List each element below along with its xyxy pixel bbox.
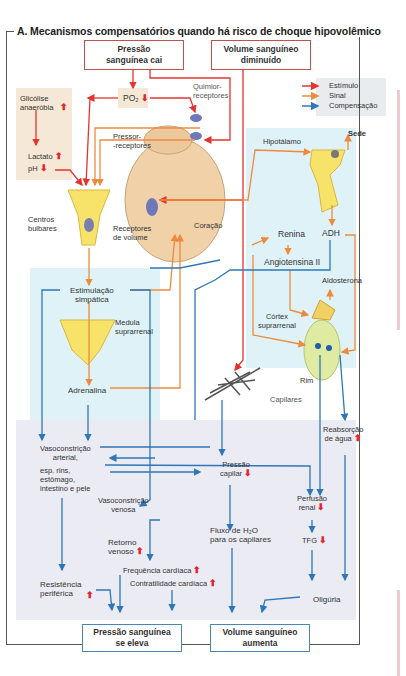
arrow-up-icon: ⬆ <box>86 590 94 600</box>
pressure-rises-box: Pressão sanguínea se eleva <box>82 624 182 652</box>
label-aldosterona: Aldosterona <box>322 276 362 285</box>
hypothalamus-illustration <box>310 150 345 212</box>
label-medula: Medula suprarrenal <box>115 318 153 336</box>
arrow-up-icon: ⬆ <box>354 433 362 443</box>
label-contratilidade: Contratilidade cardíaca ⬆ <box>130 579 217 588</box>
label-receptores-volume: Receptores de volume <box>113 224 151 242</box>
label-quimioreceptores: Quimior- receptores <box>193 82 228 100</box>
label-capilares: Capilares <box>270 395 302 404</box>
label-rim: Rim <box>300 376 313 385</box>
label-angiotensina: Angiotensina II <box>264 258 320 267</box>
label-pressao-capilar: Pressão capilar ⬇ <box>220 460 252 478</box>
label-sede: Sede <box>348 129 366 138</box>
label-tfg: TFG ⬇ <box>302 536 327 545</box>
arrow-up-icon: ⬆ <box>209 578 217 588</box>
pressure-falls-box: Pressão sanguínea cai <box>84 40 184 70</box>
legend-compensation: Compensação <box>329 101 377 110</box>
label-vasoconstricao-arterial-detail: esp. rins, estômago, intestino e pele <box>40 466 90 493</box>
label-retorno-venoso: Retorno venoso ⬆ <box>108 538 144 556</box>
label-lactato: Lactato ⬆ <box>28 152 63 161</box>
arrow-down-icon: ⬇ <box>40 163 48 173</box>
legend-stimulus: Estímulo <box>329 81 358 90</box>
label-ph: pH ⬇ <box>28 164 48 173</box>
adrenal-illustration <box>60 320 115 365</box>
label-coracao: Coração <box>194 221 222 230</box>
capillaries-illustration <box>205 368 260 400</box>
arrow-down-icon: ⬇ <box>244 468 252 478</box>
label-vasoconstricao-venosa: Vasoconstrição venosa <box>98 496 149 514</box>
volume-increases-box: Volume sanguíneo aumenta <box>210 624 310 652</box>
label-cortex: Córtex suprarrenal <box>258 312 296 330</box>
label-pressoreceptores: Pressor- -receptores <box>113 132 151 150</box>
label-estimulacao: Estimulação simpática <box>70 286 114 304</box>
label-adrenalina: Adrenalina <box>68 386 106 395</box>
label-frequencia: Frequência cardíaca ⬆ <box>123 566 201 575</box>
label-hipotalamo: Hipotálamo <box>263 137 301 146</box>
label-centros-bulbares: Centros bulbares <box>28 215 57 233</box>
label-fluxo-h2o: Fluxo de H₂O para os capilares <box>210 526 271 544</box>
label-perfusao-renal: Perfusão renal ⬇ <box>297 494 327 512</box>
arrow-up-icon: ⬆ <box>55 151 63 161</box>
arrow-down-icon: ⬇ <box>317 502 325 512</box>
label-glicolise: Glicólise anaeróbia <box>20 94 53 112</box>
label-oliguria: Oligúria <box>313 595 341 604</box>
arrow-up-icon: ⬆ <box>60 102 68 112</box>
arrow-up-icon: ⬆ <box>193 565 201 575</box>
label-resistencia: Resistência periférica <box>40 580 81 598</box>
arrow-down-icon: ⬇ <box>141 93 149 103</box>
label-adh: ADH <box>322 229 340 238</box>
volume-decreased-box: Volume sanguíneo diminuído <box>211 40 311 70</box>
legend-signal: Sinal <box>329 91 346 100</box>
arrow-down-icon: ⬇ <box>319 535 327 545</box>
kidney-illustration <box>304 300 340 380</box>
brainstem-illustration <box>68 190 110 245</box>
label-renina: Renina <box>278 230 305 239</box>
label-po2: PO₂ ⬇ <box>123 94 149 103</box>
label-reabsorcao: Reabsorção de água ⬆ <box>323 425 363 443</box>
arrow-up-icon: ⬆ <box>136 546 144 556</box>
label-vasoconstricao-arterial: Vasoconstrição arterial, <box>40 444 91 462</box>
